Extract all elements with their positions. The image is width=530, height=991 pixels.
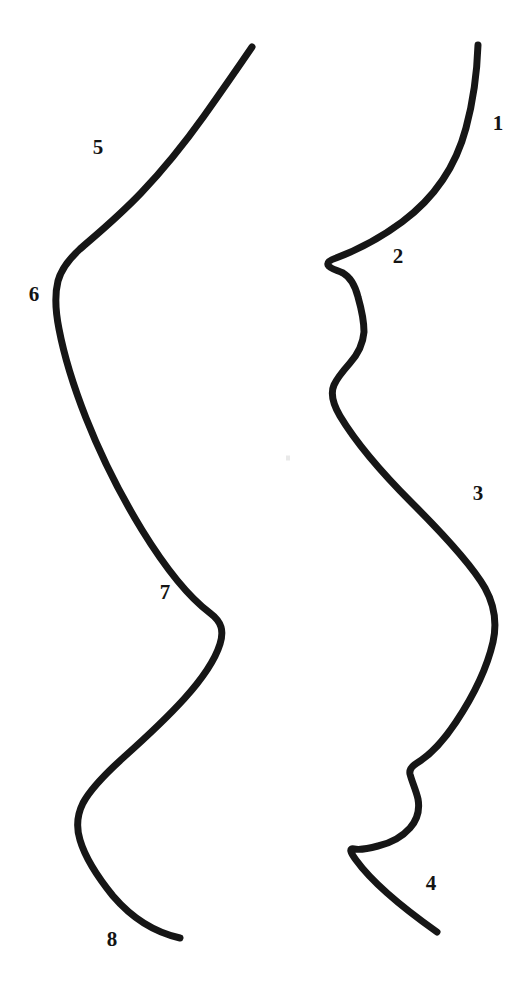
- landmark-1: 1: [493, 113, 504, 134]
- scan-artifact-speck: [286, 456, 290, 461]
- landmark-7: 7: [160, 582, 171, 603]
- landmark-6: 6: [29, 284, 40, 305]
- landmark-5: 5: [93, 137, 104, 158]
- figure-container: 12345678: [0, 0, 530, 991]
- landmark-4: 4: [426, 873, 437, 894]
- landmark-8: 8: [107, 929, 118, 950]
- landmark-2: 2: [393, 246, 404, 267]
- landmark-3: 3: [473, 483, 484, 504]
- profile-outline-drawing: [0, 0, 530, 991]
